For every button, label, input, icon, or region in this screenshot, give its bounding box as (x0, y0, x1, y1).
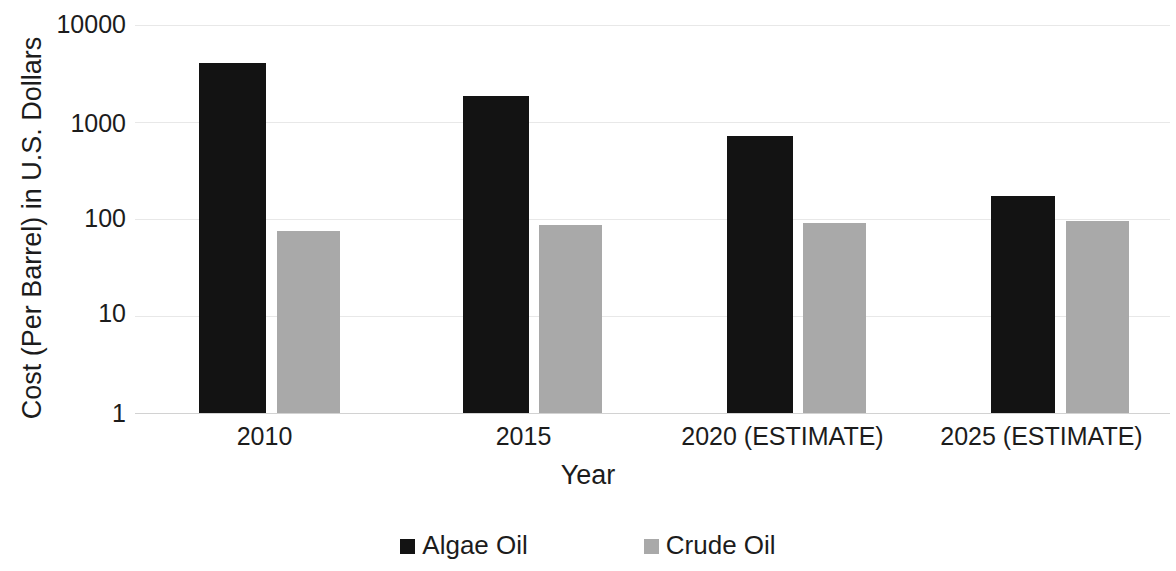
legend-swatch-icon-algae-oil (400, 539, 415, 554)
legend-item-crude-oil[interactable]: Crude Oil (644, 530, 776, 560)
bar-algae-oil-2020[interactable] (727, 136, 793, 413)
y-tick-label-100: 100 (16, 206, 126, 231)
plot-area (135, 25, 1170, 414)
chart-legend: Algae Oil Crude Oil (0, 530, 1176, 560)
bar-crude-oil-2015[interactable] (539, 225, 602, 413)
legend-item-algae-oil[interactable]: Algae Oil (400, 530, 528, 560)
bar-algae-oil-2025[interactable] (991, 196, 1055, 413)
legend-label-algae-oil: Algae Oil (422, 530, 528, 560)
bar-group-2025 (912, 24, 1171, 413)
bar-chart: Cost (Per Barrel) in U.S. Dollars 10000 … (0, 0, 1176, 571)
y-tick-label-10000: 10000 (16, 12, 126, 37)
bar-group-2020 (653, 24, 912, 413)
legend-label-crude-oil: Crude Oil (666, 530, 776, 560)
bar-algae-oil-2010[interactable] (199, 63, 266, 413)
x-tick-label-2020: 2020 (ESTIMATE) (653, 421, 912, 451)
y-tick-label-1: 1 (16, 401, 126, 426)
y-tick-label-10: 10 (16, 301, 126, 326)
x-axis-title: Year (0, 459, 1176, 491)
bar-algae-oil-2015[interactable] (463, 96, 529, 413)
y-tick-label-1000: 1000 (16, 111, 126, 136)
bar-group-2010 (135, 24, 394, 413)
bar-crude-oil-2025[interactable] (1066, 221, 1129, 413)
x-tick-label-2015: 2015 (394, 421, 653, 451)
y-axis-tick-labels: 10000 1000 100 10 1 (10, 0, 126, 440)
x-tick-label-2010: 2010 (135, 421, 394, 451)
bar-group-2015 (394, 24, 653, 413)
bar-crude-oil-2010[interactable] (277, 231, 340, 413)
axis-baseline (135, 413, 1170, 414)
bar-crude-oil-2020[interactable] (803, 223, 866, 413)
legend-swatch-icon-crude-oil (644, 539, 659, 554)
x-tick-label-2025: 2025 (ESTIMATE) (912, 421, 1171, 451)
